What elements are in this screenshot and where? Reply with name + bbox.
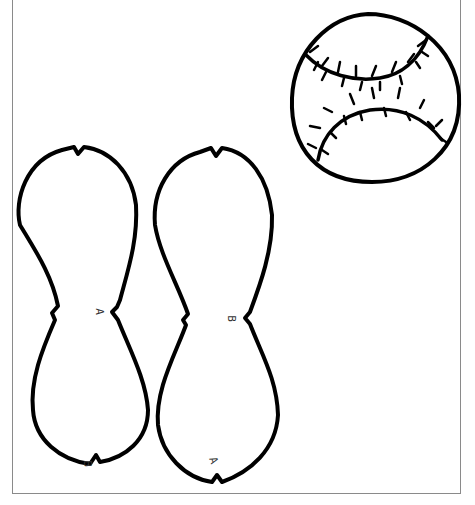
left-pattern-piece	[19, 147, 148, 464]
right-pattern-piece	[155, 148, 278, 482]
left-piece-bottom-label: B	[82, 460, 93, 467]
template-drawing	[0, 0, 475, 505]
right-piece-waist-label: B	[226, 315, 237, 322]
baseball-icon	[292, 14, 459, 182]
left-piece-waist-label: A	[94, 308, 105, 315]
